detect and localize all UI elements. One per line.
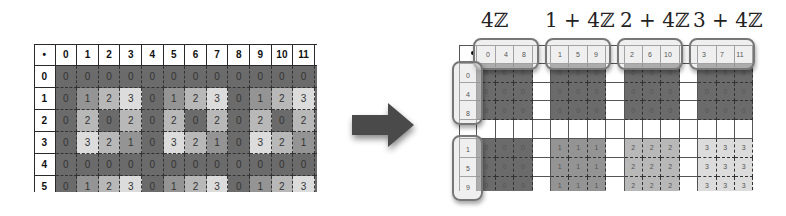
table-cell: 0 xyxy=(56,154,78,176)
table-cell: 2 xyxy=(272,132,294,154)
coset-column-group-4z: 048 xyxy=(473,38,539,70)
table-cell: 0 xyxy=(643,83,661,102)
table-cell: 0 xyxy=(551,101,569,120)
table-cell: 0 xyxy=(99,110,121,132)
table-cell: 0 xyxy=(625,101,643,120)
table-cell: 0 xyxy=(293,66,315,88)
table-cell: 0 xyxy=(228,154,250,176)
table-cell: 0 xyxy=(77,66,99,88)
row-header: 2 xyxy=(34,110,56,132)
table-cell: 0 xyxy=(588,83,606,102)
table-cell: 0 xyxy=(56,88,78,110)
spacer-row-cell xyxy=(680,120,698,139)
table-cell: 1 xyxy=(551,139,569,158)
table-cell: 2 xyxy=(164,110,186,132)
table-cell: 0 xyxy=(496,158,514,177)
table-cell: 0 xyxy=(661,101,679,120)
coset-title-2-plus-4z: 2 + 4ℤ xyxy=(620,8,690,32)
coset-row-group-4z: 048 xyxy=(452,61,483,125)
spacer-cell xyxy=(680,83,698,102)
table-cell: 0 xyxy=(228,132,250,154)
table-cell: 2 xyxy=(99,88,121,110)
coset-column-label: 3 xyxy=(695,47,713,61)
table-cell: 0 xyxy=(272,66,294,88)
column-header: 4 xyxy=(142,44,164,66)
table-cell: 0 xyxy=(164,154,186,176)
table-cell: 0 xyxy=(228,176,250,192)
table-cell: 0 xyxy=(514,83,532,102)
table-cell: 3 xyxy=(293,88,315,110)
table-cell: 1 xyxy=(588,177,606,191)
spacer-cell xyxy=(680,139,698,158)
table-cell: 1 xyxy=(588,139,606,158)
table-cell: 3 xyxy=(698,158,716,177)
table-cell: 0 xyxy=(142,154,164,176)
table-cell: 2 xyxy=(272,88,294,110)
table-cell: 0 xyxy=(56,176,78,192)
column-header: 11 xyxy=(293,44,315,66)
table-cell: 2 xyxy=(625,177,643,191)
table-cell: 2 xyxy=(272,176,294,192)
table-cell: 0 xyxy=(735,101,753,120)
table-cell: 1 xyxy=(164,88,186,110)
table-cell: 0 xyxy=(228,88,250,110)
table-cell: 0 xyxy=(717,101,735,120)
coset-column-label: 7 xyxy=(713,47,731,61)
table-cell: 2 xyxy=(293,110,315,132)
table-cell: 2 xyxy=(250,110,272,132)
table-cell: 1 xyxy=(77,176,99,192)
table-cell: 2 xyxy=(661,177,679,191)
coset-row-label: 8 xyxy=(459,105,477,121)
table-cell: 0 xyxy=(99,154,121,176)
table-cell: 0 xyxy=(625,83,643,102)
spacer-cell xyxy=(606,139,624,158)
spacer-row-cell xyxy=(496,120,514,139)
column-header: 0 xyxy=(56,44,78,66)
table-cell: 0 xyxy=(77,154,99,176)
table-cell: 0 xyxy=(496,83,514,102)
table-cell: 0 xyxy=(120,66,142,88)
table-cell: 3 xyxy=(207,88,229,110)
spacer-cell xyxy=(533,101,551,120)
coset-title-1-plus-4z: 1 + 4ℤ xyxy=(545,8,615,32)
table-cell: 3 xyxy=(207,176,229,192)
spacer-row-cell xyxy=(735,120,753,139)
spacer-cell xyxy=(680,177,698,191)
coset-column-group-2-plus-4z: 2610 xyxy=(617,38,683,70)
row-header: 0 xyxy=(34,66,56,88)
table-cell: 3 xyxy=(164,132,186,154)
table-cell: 3 xyxy=(717,158,735,177)
table-cell: 0 xyxy=(142,132,164,154)
table-cell-partial xyxy=(315,88,317,110)
coset-column-group-1-plus-4z: 159 xyxy=(545,38,611,70)
row-header: 3 xyxy=(34,132,56,154)
column-header: 6 xyxy=(185,44,207,66)
row-header: 5 xyxy=(34,176,56,192)
column-header: 2 xyxy=(99,44,121,66)
table-cell: 2 xyxy=(185,88,207,110)
table-cell: 2 xyxy=(185,176,207,192)
multiplication-table-mod-4: •012345678910110000000000000101230123012… xyxy=(34,44,317,192)
coset-title-4z: 4ℤ xyxy=(481,8,508,32)
table-cell: 0 xyxy=(514,139,532,158)
spacer-row-cell xyxy=(606,120,624,139)
spacer-cell xyxy=(606,158,624,177)
spacer-cell xyxy=(533,139,551,158)
column-header: 8 xyxy=(228,44,250,66)
table-cell: 3 xyxy=(698,139,716,158)
spacer-row-cell xyxy=(569,120,587,139)
table-cell: 0 xyxy=(142,66,164,88)
table-cell: 1 xyxy=(551,177,569,191)
coset-column-label: 10 xyxy=(659,47,677,61)
coset-column-label: 2 xyxy=(623,47,641,61)
table-cell: 0 xyxy=(272,110,294,132)
table-cell: 2 xyxy=(643,139,661,158)
table-cell: 0 xyxy=(99,66,121,88)
coset-row-label: 4 xyxy=(459,86,477,102)
table-cell: 1 xyxy=(588,158,606,177)
table-cell: 2 xyxy=(643,177,661,191)
table-cell: 0 xyxy=(185,110,207,132)
table-cell: 2 xyxy=(625,158,643,177)
spacer-cell xyxy=(680,158,698,177)
spacer-cell xyxy=(533,83,551,102)
